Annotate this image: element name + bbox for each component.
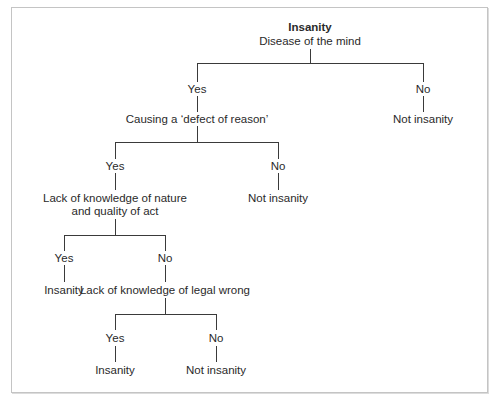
l3-no-label: No [158, 252, 173, 265]
l2-yes-label: Yes [106, 160, 125, 173]
l3-no-question: Lack of knowledge of legal wrong [80, 284, 250, 297]
l4-no-outcome: Not insanity [186, 364, 246, 377]
l2-yes-question-line1: Lack of knowledge of nature [43, 192, 187, 205]
l2-no-outcome: Not insanity [248, 192, 308, 205]
l1-no-label: No [416, 83, 431, 96]
l4-no-label: No [209, 332, 224, 345]
l3-yes-outcome: Insanity [44, 284, 84, 297]
root-title: Insanity [288, 21, 331, 34]
l4-yes-outcome: Insanity [95, 364, 135, 377]
l1-yes-question: Causing a ‘defect of reason’ [126, 113, 269, 126]
root-question: Disease of the mind [259, 35, 361, 48]
l4-yes-label: Yes [106, 332, 125, 345]
l1-no-outcome: Not insanity [393, 113, 453, 126]
l2-no-label: No [271, 160, 286, 173]
l3-yes-label: Yes [55, 252, 74, 265]
l1-yes-label: Yes [188, 83, 207, 96]
l2-yes-question-line2: and quality of act [72, 205, 159, 218]
